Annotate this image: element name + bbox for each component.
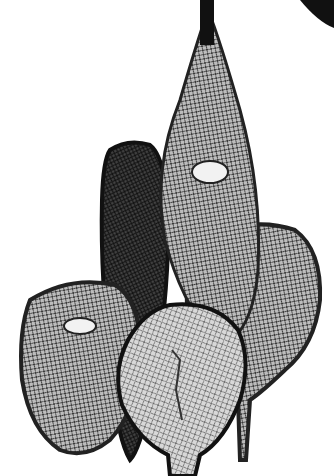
snowshoe-tail xyxy=(200,0,214,45)
toe-hole xyxy=(64,318,96,334)
snowshoe-photo xyxy=(0,0,334,476)
toe-hole xyxy=(192,161,228,183)
corner-shape xyxy=(300,0,334,28)
snowshoe-illustration xyxy=(0,0,334,476)
